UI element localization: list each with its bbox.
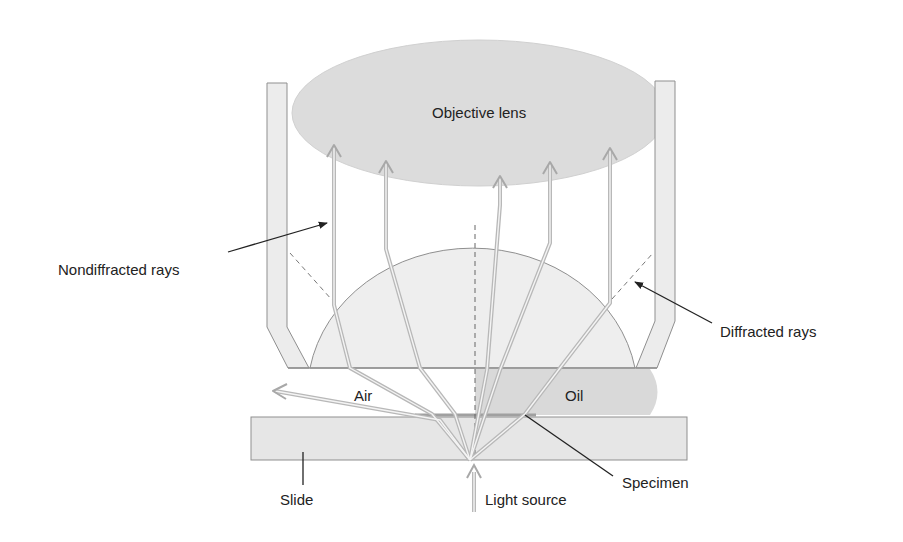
label-specimen: Specimen — [622, 474, 689, 491]
diffracted-dash-right — [612, 253, 653, 299]
label-diffracted-rays: Diffracted rays — [720, 323, 816, 340]
front-lens-dome — [310, 248, 635, 368]
light-source-arrow — [467, 465, 481, 512]
label-oil: Oil — [565, 387, 583, 404]
label-light-source: Light source — [485, 491, 567, 508]
diffracted-dash-left — [290, 253, 332, 300]
oil-immersion-diagram: Objective lens Nondiffracted rays Diffra… — [0, 0, 903, 542]
label-slide: Slide — [280, 491, 313, 508]
label-objective-lens: Objective lens — [432, 104, 526, 121]
label-nondiffracted-rays: Nondiffracted rays — [58, 261, 179, 278]
label-air: Air — [354, 387, 372, 404]
